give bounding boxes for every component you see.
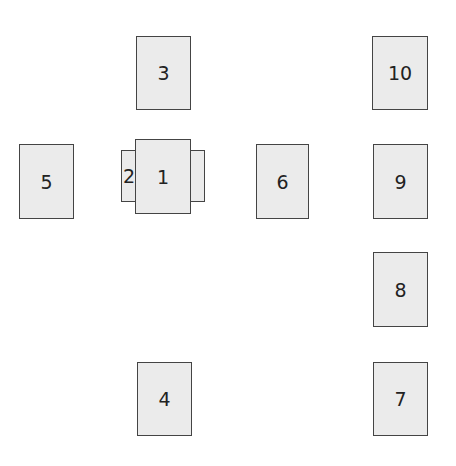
card-1: 1	[135, 139, 191, 214]
card-9-label: 9	[394, 171, 406, 193]
card-7-label: 7	[394, 388, 406, 410]
card-9: 9	[373, 144, 428, 219]
card-4: 4	[137, 362, 192, 436]
card-3: 3	[136, 36, 191, 110]
card-2-label: 2	[123, 165, 135, 187]
card-3-label: 3	[157, 62, 169, 84]
card-8-label: 8	[394, 279, 406, 301]
card-7: 7	[373, 362, 428, 436]
card-6: 6	[256, 144, 309, 219]
card-6-label: 6	[276, 171, 288, 193]
card-5-label: 5	[40, 171, 52, 193]
card-10: 10	[372, 36, 428, 110]
card-10-label: 10	[388, 62, 412, 84]
card-5: 5	[19, 144, 74, 219]
card-8: 8	[373, 252, 428, 327]
card-1-label: 1	[157, 166, 169, 188]
card-4-label: 4	[158, 388, 170, 410]
